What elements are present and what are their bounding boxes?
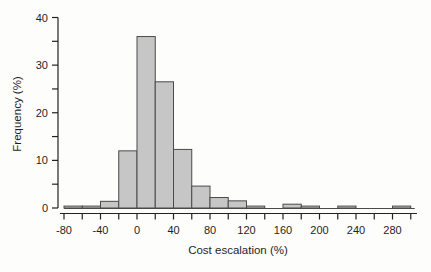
x-tick-label: 280 bbox=[383, 224, 401, 236]
histogram-bar bbox=[101, 201, 119, 208]
y-tick-label: 20 bbox=[36, 107, 48, 119]
histogram-bar bbox=[393, 206, 411, 208]
histogram-bar bbox=[192, 186, 210, 208]
histogram-bar bbox=[283, 204, 301, 208]
x-tick-label: 200 bbox=[310, 224, 328, 236]
x-tick-label: -40 bbox=[93, 224, 109, 236]
histogram-bar bbox=[155, 82, 173, 208]
y-tick-label: 0 bbox=[42, 202, 48, 214]
histogram-bar bbox=[82, 206, 100, 208]
y-axis-label: Frequency (%) bbox=[11, 76, 23, 152]
x-tick-label: 120 bbox=[237, 224, 255, 236]
x-tick-label: 160 bbox=[274, 224, 292, 236]
histogram-bars bbox=[64, 37, 415, 209]
histogram-bar bbox=[301, 206, 319, 208]
histogram-bar bbox=[247, 206, 265, 208]
x-tick-label: 40 bbox=[167, 224, 179, 236]
y-tick-label: 40 bbox=[36, 12, 48, 24]
x-tick-label: 0 bbox=[134, 224, 140, 236]
y-tick-label: 10 bbox=[36, 154, 48, 166]
x-tick-label: 80 bbox=[204, 224, 216, 236]
histogram-bar bbox=[228, 201, 246, 208]
histogram-bar bbox=[119, 151, 137, 208]
histogram-bar bbox=[338, 206, 356, 208]
histogram-figure: 010203040-80-4004080120160200240280 Freq… bbox=[0, 0, 431, 272]
x-tick-label: 240 bbox=[347, 224, 365, 236]
y-tick-label: 30 bbox=[36, 59, 48, 71]
histogram-bar bbox=[137, 37, 155, 208]
x-axis-label: Cost escalation (%) bbox=[188, 244, 288, 256]
histogram-bar bbox=[64, 206, 82, 208]
histogram-bar bbox=[174, 149, 192, 208]
histogram-chart: 010203040-80-4004080120160200240280 Freq… bbox=[0, 0, 431, 272]
histogram-bar bbox=[210, 198, 228, 208]
x-tick-label: -80 bbox=[56, 224, 72, 236]
